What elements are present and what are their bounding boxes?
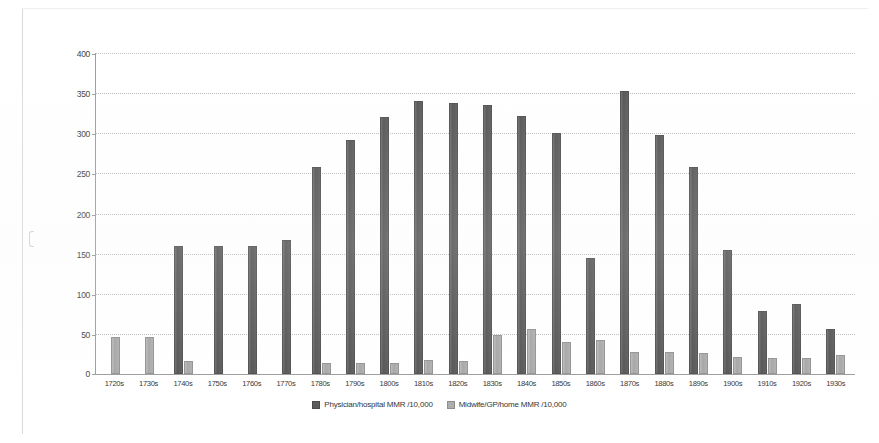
bar-category-1910s [750, 53, 784, 374]
bar-1920s-series1 [792, 304, 801, 374]
bar-category-1770s [270, 53, 304, 374]
bar-category-1810s [407, 53, 441, 374]
bar-1840s-series2 [527, 329, 536, 374]
bar-1870s-series1 [620, 91, 629, 374]
y-axis-tick-label: 400 [77, 49, 90, 59]
bar-1910s-series2 [768, 358, 777, 374]
bar-1830s-series2 [493, 335, 502, 374]
x-axis-label-1910s: 1910s [750, 378, 784, 392]
bar-1780s-series2 [322, 363, 331, 374]
bar-1910s-series1 [758, 311, 767, 374]
x-axis-label-1850s: 1850s [544, 378, 578, 392]
y-axis-tick-label: 0 [86, 369, 90, 379]
x-axis-labels: 1720s1730s1740s1750s1760s1770s1780s1790s… [95, 378, 855, 392]
bar-chart: 050100150200250300350400 1720s1730s1740s… [0, 0, 879, 443]
x-axis-label-1930s: 1930s [819, 378, 853, 392]
bar-1930s-series2 [836, 355, 845, 374]
bar-1880s-series2 [665, 352, 674, 374]
bar-category-1730s [132, 53, 166, 374]
bar-1880s-series1 [655, 135, 664, 374]
bar-1780s-series1 [312, 167, 321, 374]
bar-1740s-series1 [174, 246, 183, 374]
x-axis-label-1920s: 1920s [784, 378, 818, 392]
bar-category-1750s [201, 53, 235, 374]
x-axis-label-1790s: 1790s [338, 378, 372, 392]
bar-category-1860s [578, 53, 612, 374]
bar-category-1870s [613, 53, 647, 374]
bar-1810s-series1 [414, 101, 423, 374]
bar-category-1760s [235, 53, 269, 374]
x-axis-label-1740s: 1740s [166, 378, 200, 392]
legend-swatch-physician-icon [312, 401, 320, 409]
bar-1790s-series2 [356, 363, 365, 374]
x-axis-label-1750s: 1750s [200, 378, 234, 392]
x-axis-label-1730s: 1730s [131, 378, 165, 392]
bar-1920s-series2 [802, 358, 811, 374]
bar-1800s-series1 [380, 117, 389, 374]
bar-1850s-series1 [552, 133, 561, 374]
bar-1740s-series2 [184, 361, 193, 374]
bar-1900s-series1 [723, 250, 732, 374]
bar-1720s-series2 [111, 337, 120, 374]
bar-1890s-series2 [699, 353, 708, 374]
bar-1810s-series2 [424, 360, 433, 374]
bar-1750s-series1 [214, 246, 223, 374]
bar-1860s-series2 [596, 340, 605, 374]
bar-category-1850s [544, 53, 578, 374]
y-axis-tick-label: 350 [77, 89, 90, 99]
bar-1820s-series2 [459, 361, 468, 374]
plot-wrapper: 050100150200250300350400 [95, 53, 855, 375]
bar-category-1820s [441, 53, 475, 374]
y-axis-tick-label: 100 [77, 290, 90, 300]
x-axis-label-1720s: 1720s [97, 378, 131, 392]
bar-1730s-series2 [145, 337, 154, 374]
bar-1930s-series1 [826, 329, 835, 374]
y-axis-tick-label: 300 [77, 129, 90, 139]
bar-category-1720s [98, 53, 132, 374]
x-axis-label-1800s: 1800s [372, 378, 406, 392]
x-axis-label-1840s: 1840s [509, 378, 543, 392]
bar-1760s-series1 [248, 246, 257, 374]
bar-category-1830s [475, 53, 509, 374]
x-axis-label-1770s: 1770s [269, 378, 303, 392]
x-axis-label-1820s: 1820s [441, 378, 475, 392]
bar-1820s-series1 [449, 103, 458, 374]
x-axis-label-1810s: 1810s [406, 378, 440, 392]
bar-category-1790s [338, 53, 372, 374]
x-axis-label-1870s: 1870s [612, 378, 646, 392]
y-axis-tick-label: 250 [77, 169, 90, 179]
bar-1860s-series1 [586, 258, 595, 374]
legend-item-1[interactable]: Physician/hospital MMR /10,000 [312, 400, 432, 409]
bar-1900s-series2 [733, 357, 742, 374]
bar-category-1840s [510, 53, 544, 374]
legend-label: Midwife/GP/home MMR /10,000 [459, 400, 567, 409]
bar-category-1890s [681, 53, 715, 374]
bar-category-1880s [647, 53, 681, 374]
x-axis-label-1830s: 1830s [475, 378, 509, 392]
bar-category-1780s [304, 53, 338, 374]
bar-1830s-series1 [483, 105, 492, 374]
y-axis-tick-label: 150 [77, 250, 90, 260]
y-axis-tick-label: 50 [81, 330, 90, 340]
y-axis-tick-mark [92, 374, 96, 375]
legend-item-2[interactable]: Midwife/GP/home MMR /10,000 [447, 400, 567, 409]
y-axis-tick-label: 200 [77, 210, 90, 220]
bar-1850s-series2 [562, 342, 571, 374]
bar-1800s-series2 [390, 363, 399, 374]
x-axis-label-1900s: 1900s [715, 378, 749, 392]
bar-category-1740s [167, 53, 201, 374]
bar-category-1800s [373, 53, 407, 374]
x-axis-label-1780s: 1780s [303, 378, 337, 392]
chart-legend: Physician/hospital MMR /10,000Midwife/GP… [0, 400, 879, 409]
bar-category-1930s [819, 53, 853, 374]
bar-1790s-series1 [346, 140, 355, 374]
x-axis-label-1880s: 1880s [647, 378, 681, 392]
x-axis-label-1760s: 1760s [234, 378, 268, 392]
legend-swatch-midwife-icon [447, 401, 455, 409]
bar-group [96, 53, 855, 374]
bar-category-1900s [716, 53, 750, 374]
x-axis-label-1860s: 1860s [578, 378, 612, 392]
bar-1840s-series1 [517, 116, 526, 374]
plot-area: 050100150200250300350400 [95, 53, 855, 375]
bar-category-1920s [784, 53, 818, 374]
